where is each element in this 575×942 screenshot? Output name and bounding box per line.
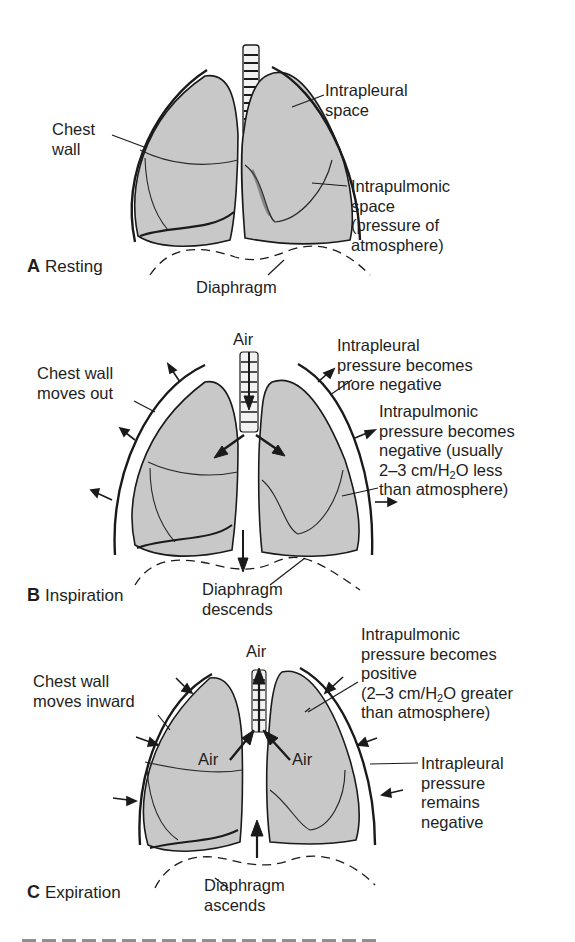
label-diaphragm-descends: Diaphragm descends: [202, 580, 283, 619]
panel-b-inspiration: Air Chest wall moves out Intrapleural pr…: [0, 300, 575, 620]
label-air: Air: [233, 330, 253, 350]
diaphragm-down-arrow-icon: [238, 530, 248, 572]
diaphragm-up-arrow-icon: [251, 820, 263, 858]
right-lung-icon: [267, 671, 360, 844]
label-air-top: Air: [246, 642, 266, 662]
figure-caption-cutoff: [22, 936, 382, 942]
label-intrapleural-pressure: Intrapleural pressure becomes more negat…: [337, 336, 473, 395]
label-diaphragm: Diaphragm: [196, 278, 277, 298]
left-lung-icon: [135, 76, 238, 247]
label-intrapulmonic-space: Intrapulmonic space (pressure of atmosph…: [351, 177, 450, 255]
label-intrapleural-space: Intrapleural space: [325, 81, 408, 120]
panel-a-resting: Chest wall Intrapleural space Intrapulmo…: [0, 0, 575, 300]
label-air-right: Air: [292, 750, 312, 770]
diaphragm-line: [150, 246, 370, 275]
panel-title-a: AResting: [27, 256, 103, 277]
label-chest-wall-moves-out: Chest wall moves out: [37, 364, 113, 403]
label-intrapulmonic-pressure: Intrapulmonic pressure becomes negative …: [379, 402, 515, 500]
panel-title-c: CExpiration: [27, 882, 121, 903]
label-diaphragm-ascends: Diaphragm ascends: [204, 876, 285, 915]
label-chest-wall: Chest wall: [52, 120, 95, 159]
panel-title-b: BInspiration: [27, 585, 123, 606]
label-intrapleural-remains-negative: Intrapleural pressure remains negative: [421, 754, 504, 832]
label-air-left: Air: [198, 750, 218, 770]
label-chest-wall-moves-inward: Chest wall moves inward: [33, 672, 135, 711]
label-intrapulmonic-pressure-positive: Intrapulmonic pressure becomes positive …: [361, 625, 513, 723]
panel-c-expiration: Air Air Air Chest wall moves inward Intr…: [0, 620, 575, 942]
